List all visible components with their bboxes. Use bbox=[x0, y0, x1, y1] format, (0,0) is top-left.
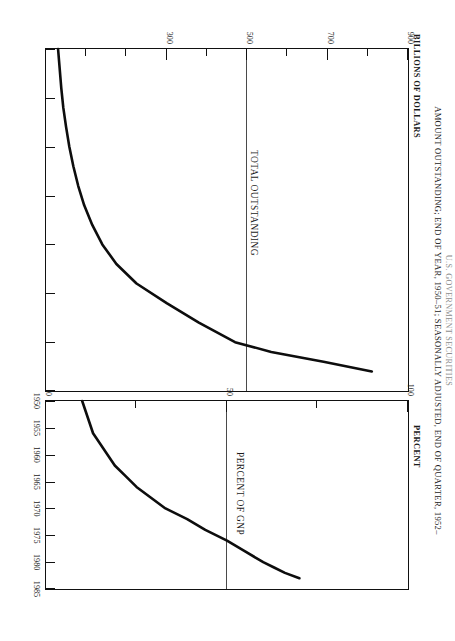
y-tick-label: 500 bbox=[245, 22, 254, 44]
dollars-axis-caption: BILLIONS OF DOLLARS bbox=[412, 34, 421, 138]
x-tick-label: 1980 bbox=[32, 550, 41, 574]
figure: U.S. GOVERNMENT SECURITIES AMOUNT OUTSTA… bbox=[0, 0, 455, 641]
series-svg bbox=[46, 401, 408, 589]
data-series-line bbox=[58, 49, 372, 371]
series-label-total-outstanding: TOTAL OUTSTANDING bbox=[249, 150, 259, 256]
x-tick-label: 1975 bbox=[32, 523, 41, 547]
dollars-plot-panel bbox=[45, 48, 409, 392]
x-tick-label: 1970 bbox=[32, 496, 41, 520]
percent-plot-panel bbox=[45, 400, 409, 590]
x-tick-label: 1950 bbox=[32, 389, 41, 413]
y-tick-label: 300 bbox=[165, 22, 174, 44]
percent-axis-caption: PERCENT bbox=[412, 425, 421, 468]
series-label-percent-of-gnp: PERCENT OF GNP bbox=[235, 452, 245, 535]
x-tick-label: 1965 bbox=[32, 470, 41, 494]
figure-title-partial: U.S. GOVERNMENT SECURITIES bbox=[444, 0, 453, 641]
y-tick-label: 0 bbox=[44, 374, 53, 396]
y-tick-label: 700 bbox=[326, 22, 335, 44]
y-tick-label: 50 bbox=[225, 374, 234, 396]
y-tick-label: 100 bbox=[406, 374, 415, 396]
series-svg bbox=[46, 49, 408, 391]
x-tick-label: 1960 bbox=[32, 443, 41, 467]
rotated-figure-container: U.S. GOVERNMENT SECURITIES AMOUNT OUTSTA… bbox=[0, 0, 455, 641]
y-tick-label: 900 bbox=[406, 22, 415, 44]
x-tick-label: 1985 bbox=[32, 577, 41, 601]
data-series-line bbox=[82, 401, 299, 578]
figure-subtitle: AMOUNT OUTSTANDING; END OF YEAR, 1950–51… bbox=[433, 0, 443, 641]
x-tick-label: 1955 bbox=[32, 416, 41, 440]
